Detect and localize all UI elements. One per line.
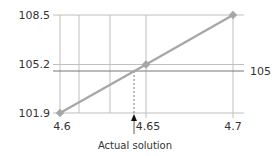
reference-label: 105 (250, 65, 271, 78)
y-tick-101.9: 101.9 (19, 107, 51, 120)
x-tick-4.65: 4.65 (136, 120, 161, 133)
x-tick-4.7: 4.7 (224, 120, 242, 133)
chart: 108.5 105.2 101.9 4.6 4.65 4.7 105 Actua… (0, 0, 275, 156)
grid (53, 15, 244, 118)
y-tick-108.5: 108.5 (19, 9, 51, 22)
annotation-actual-solution: Actual solution (98, 140, 172, 151)
x-tick-4.6: 4.6 (53, 120, 71, 133)
y-tick-105.2: 105.2 (19, 58, 51, 71)
